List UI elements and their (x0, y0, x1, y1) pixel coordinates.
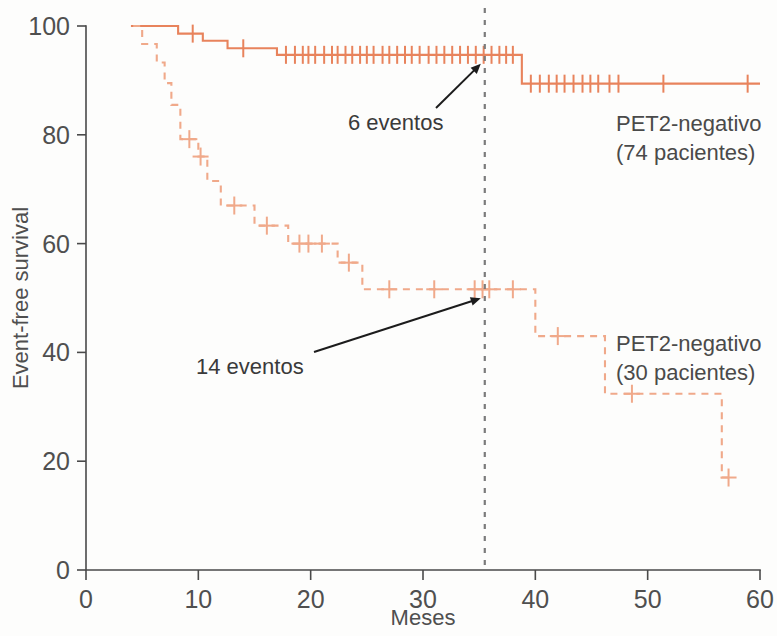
series-2 (133, 26, 736, 487)
annotation-label-1: 6 eventos (348, 110, 443, 135)
survival-curve-2 (133, 26, 728, 478)
legend-label-line2-2: (30 pacientes) (616, 360, 755, 385)
y-tick-label: 80 (42, 121, 70, 149)
legend-label-line2-1: (74 pacientes) (616, 140, 755, 165)
x-tick-label: 50 (634, 585, 662, 613)
y-tick-label: 20 (42, 447, 70, 475)
axis-lines (86, 26, 760, 570)
legend-label-line1-2: PET2-negativo (616, 331, 762, 356)
y-tick-label: 60 (42, 230, 70, 258)
axes: 0204060801000102030405060 (28, 12, 774, 613)
annotations: 6 eventos14 eventos (196, 64, 481, 379)
y-tick-label: 40 (42, 338, 70, 366)
kaplan-meier-figure: 0204060801000102030405060 6 eventos14 ev… (0, 0, 777, 636)
x-tick-label: 40 (521, 585, 549, 613)
x-tick-label: 10 (184, 585, 212, 613)
legend-label-line1-1: PET2-negativo (616, 111, 762, 136)
chart-svg: 0204060801000102030405060 6 eventos14 ev… (0, 0, 777, 636)
legend-2: PET2-negativo(30 pacientes) (616, 331, 762, 385)
x-tick-label: 60 (746, 585, 774, 613)
y-tick-label: 100 (28, 12, 70, 40)
legend-1: PET2-negativo(74 pacientes) (616, 111, 762, 165)
annotation-arrow-1 (436, 70, 474, 108)
series-1 (131, 25, 760, 93)
y-axis-label: Event-free survival (8, 207, 33, 389)
x-tick-label: 0 (79, 585, 93, 613)
annotation-arrowhead-2 (470, 297, 481, 305)
y-tick-label: 0 (56, 556, 70, 584)
x-axis-label: Meses (391, 605, 456, 630)
survival-curve-1 (131, 26, 760, 84)
annotation-arrow-2 (314, 301, 472, 352)
annotation-label-2: 14 eventos (196, 354, 304, 379)
legends: PET2-negativo(74 pacientes)PET2-negativo… (616, 111, 762, 385)
survival-curves (131, 25, 760, 487)
x-tick-label: 20 (297, 585, 325, 613)
